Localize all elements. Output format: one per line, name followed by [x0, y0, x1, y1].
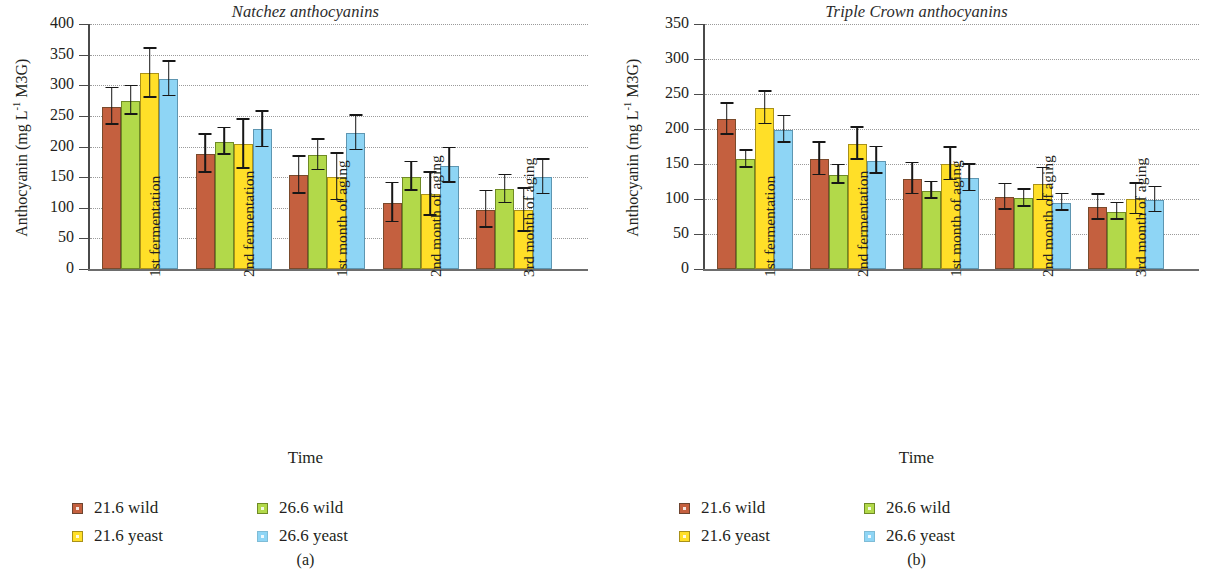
legend-item-c1[interactable]: 26.6 wild [257, 494, 432, 522]
error-bar [968, 165, 970, 192]
y-axis-tick: 150 [694, 164, 703, 165]
error-bar-cap-top [498, 174, 511, 176]
legend-swatch-icon [257, 531, 268, 542]
y-axis-tick: 300 [694, 59, 703, 60]
bar[interactable] [215, 142, 234, 269]
error-bar [485, 191, 487, 228]
error-bar [130, 86, 132, 114]
y-axis-label-main: Anthocyanin (mg L [624, 110, 641, 236]
panel-b: Triple Crown anthocyanins Anthocyanin (m… [611, 0, 1222, 580]
error-bar-cap-top [256, 110, 269, 112]
y-axis-tick-label: 300 [665, 49, 689, 67]
error-bar-cap-bottom [777, 141, 790, 143]
legend-item-c1[interactable]: 26.6 wild [864, 494, 1039, 522]
error-bar [355, 116, 357, 150]
bar-slot [829, 24, 848, 269]
bar[interactable] [121, 101, 140, 269]
bar[interactable] [717, 119, 736, 269]
bar-slot [1014, 24, 1033, 269]
error-bar [392, 183, 394, 222]
legend-swatch-icon [72, 531, 83, 542]
error-bar-cap-top [405, 161, 418, 163]
error-bar-cap-top [944, 146, 957, 148]
error-bar-cap-bottom [832, 182, 845, 184]
error-bar-cap-bottom [906, 193, 919, 195]
bar[interactable] [1107, 212, 1126, 269]
bar[interactable] [922, 191, 941, 269]
error-bar-cap-top [1017, 188, 1030, 190]
legend-item-c0[interactable]: 21.6 wild [72, 494, 247, 522]
x-axis-tick-label: 1st month of aging [333, 160, 351, 277]
legend-swatch-icon [679, 531, 690, 542]
error-bar-cap-top [237, 118, 250, 120]
y-axis-label-main: Anthocyanin (mg L [13, 110, 30, 236]
error-bar-cap-bottom [292, 192, 305, 194]
error-bar-cap-top [199, 133, 212, 135]
error-bar-cap-top [720, 102, 733, 104]
y-axis-tick-label: 150 [50, 167, 74, 185]
y-axis-tick: 100 [694, 199, 703, 200]
error-bar-cap-top [758, 90, 771, 92]
legend-item-c2[interactable]: 21.6 yeast [679, 522, 854, 550]
bar-slot [121, 24, 140, 269]
bar[interactable] [736, 159, 755, 269]
error-bar-cap-top [1148, 186, 1161, 188]
panel-a-x-axis-label: Time [0, 448, 611, 468]
y-axis-label-tail: M3G) [624, 59, 641, 102]
bar[interactable] [810, 159, 829, 269]
error-bar-cap-bottom [758, 123, 771, 125]
figure-root: Natchez anthocyanins Anthocyanin (mg L-1… [0, 0, 1222, 580]
error-bar [223, 128, 225, 155]
error-bar [838, 165, 840, 183]
bar[interactable] [829, 175, 848, 270]
y-axis-tick-label: 350 [665, 14, 689, 32]
y-axis-tick-label: 200 [50, 137, 74, 155]
error-bar-cap-top [1091, 193, 1104, 195]
error-bar-cap-top [330, 152, 343, 154]
error-bar [149, 49, 151, 98]
bar[interactable] [102, 107, 121, 269]
y-axis-tick: 50 [694, 234, 703, 235]
y-axis-tick-label: 100 [665, 189, 689, 207]
error-bar [111, 88, 113, 125]
bar-slot [717, 24, 736, 269]
bar-group [476, 24, 552, 269]
legend-item-c3[interactable]: 26.6 yeast [864, 522, 1039, 550]
panel-b-subcaption: (b) [611, 551, 1222, 569]
error-bar-cap-bottom [925, 197, 938, 199]
error-bar-cap-top [479, 190, 492, 192]
error-bar-cap-bottom [1148, 211, 1161, 213]
x-axis-tick-label: 2nd month of aging [427, 155, 445, 277]
bar-slot [495, 24, 514, 269]
error-bar [242, 120, 244, 169]
legend-label: 26.6 yeast [279, 526, 348, 546]
bar-group [810, 24, 886, 269]
error-bar-cap-top [143, 47, 156, 49]
y-axis-tick-label: 350 [50, 45, 74, 63]
y-axis-tick: 400 [79, 24, 88, 25]
bar-group [196, 24, 272, 269]
bar[interactable] [308, 155, 327, 269]
error-bar-cap-top [218, 127, 231, 129]
panel-a-legend: 21.6 wild26.6 wild21.6 yeast26.6 yeast [72, 494, 542, 550]
bar-slot [1088, 24, 1107, 269]
legend-item-c2[interactable]: 21.6 yeast [72, 522, 247, 550]
y-axis-tick-label: 200 [665, 119, 689, 137]
bar[interactable] [1014, 198, 1033, 269]
y-axis-label-exponent: -1 [11, 102, 22, 111]
legend-item-c3[interactable]: 26.6 yeast [257, 522, 432, 550]
error-bar [317, 140, 319, 171]
y-axis-tick-label: 400 [50, 14, 74, 32]
legend-item-c0[interactable]: 21.6 wild [679, 494, 854, 522]
y-axis-tick: 250 [694, 94, 703, 95]
error-bar-cap-top [739, 149, 752, 151]
error-bar-cap-bottom [405, 189, 418, 191]
y-axis-label-exponent: -1 [622, 102, 633, 111]
bar-slot [289, 24, 308, 269]
error-bar-cap-top [349, 114, 362, 116]
error-bar-cap-top [1110, 202, 1123, 204]
error-bar-cap-top [832, 164, 845, 166]
error-bar-cap-top [777, 115, 790, 117]
bar-group [383, 24, 459, 269]
error-bar [819, 143, 821, 175]
